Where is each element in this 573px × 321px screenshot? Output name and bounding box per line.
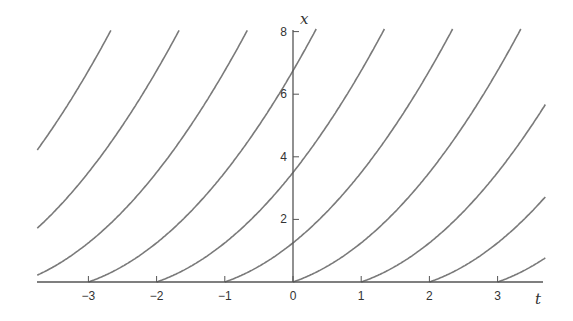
x-axis-label: x <box>300 10 309 28</box>
t-tick-label: −1 <box>218 289 232 303</box>
x-axis-ticks: 2468 <box>280 25 299 227</box>
characteristic-curves <box>37 29 545 282</box>
t-axis-label: t <box>535 290 542 308</box>
t-tick-label: 0 <box>290 289 297 303</box>
curve-cm2 <box>157 29 385 282</box>
x-tick-label: 2 <box>280 212 287 226</box>
curve-c3 <box>498 258 546 282</box>
t-tick-label: −2 <box>150 289 164 303</box>
x-tick-label: 8 <box>280 25 287 39</box>
x-tick-label: 4 <box>280 150 287 164</box>
t-tick-label: 1 <box>358 289 365 303</box>
x-tick-label: 6 <box>280 87 287 101</box>
t-axis-ticks: −3−2−10123 <box>82 276 502 303</box>
curve-cm5 <box>37 30 179 228</box>
t-tick-label: 2 <box>426 289 433 303</box>
chart: −3−2−10123 2468 t x <box>0 0 573 321</box>
t-tick-label: 3 <box>494 289 501 303</box>
curve-cm6 <box>37 30 111 150</box>
t-tick-label: −3 <box>82 289 96 303</box>
curve-c0 <box>293 29 521 282</box>
curve-c1 <box>361 105 545 283</box>
curve-cm1 <box>225 29 453 282</box>
curve-cm4 <box>37 30 247 275</box>
